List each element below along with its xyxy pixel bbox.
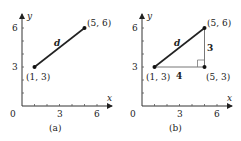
point-1-3 [153, 65, 157, 69]
panel-a: 0 3 6 3 6 x y d (1, 3) (5, 6) (a) [10, 11, 112, 133]
point-label-1-3: (1, 3) [146, 72, 170, 82]
distance-formula-figure: 0 3 6 3 6 x y d (1, 3) (5, 6) (a) [0, 0, 241, 141]
origin-label: 0 [10, 109, 16, 119]
segment-label-d: d [174, 38, 181, 48]
caption-b: (b) [169, 123, 182, 133]
x-tick-3: 3 [57, 109, 63, 119]
y-axis-label: y [26, 11, 33, 21]
point-5-6 [203, 26, 207, 30]
x-tick-6: 6 [94, 109, 100, 119]
segment-label-d: d [54, 38, 61, 48]
x-axis-label: x [107, 93, 112, 103]
point-label-5-3: (5, 3) [206, 72, 230, 82]
y-tick-6: 6 [12, 23, 18, 33]
origin-label: 0 [130, 109, 136, 119]
point-label-1-3: (1, 3) [26, 72, 50, 82]
y-tick-3: 3 [12, 62, 18, 72]
y-axis-label: y [146, 11, 153, 21]
y-tick-6: 6 [132, 23, 138, 33]
point-5-3 [203, 65, 207, 69]
panel-b: 0 3 6 3 6 x y d 3 4 (1, 3) (5, 6) (5, 3)… [130, 11, 232, 133]
horizontal-leg-label: 4 [176, 71, 182, 81]
point-label-5-6: (5, 6) [87, 18, 111, 28]
vertical-leg-label: 3 [207, 43, 213, 53]
point-5-6 [83, 26, 87, 30]
y-tick-3: 3 [132, 62, 138, 72]
caption-a: (a) [49, 123, 61, 133]
x-axis-label: x [227, 93, 232, 103]
point-label-5-6: (5, 6) [207, 18, 231, 28]
x-tick-3: 3 [177, 109, 183, 119]
point-1-3 [33, 65, 37, 69]
x-tick-6: 6 [214, 109, 220, 119]
